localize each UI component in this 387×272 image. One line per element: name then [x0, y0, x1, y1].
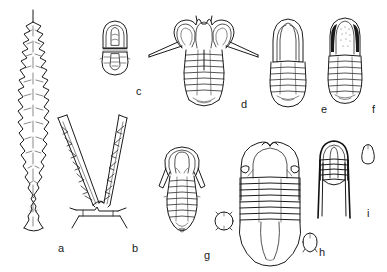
figure-d-trilobite: [149, 16, 258, 106]
figure-b-graptolite: [58, 115, 127, 228]
figure-label-f: f: [372, 104, 375, 115]
figure-f-trilobite: [328, 18, 362, 104]
figure-e-trilobite: [270, 19, 306, 107]
figure-label-g: g: [204, 250, 210, 261]
figure-a-graptolite: [18, 10, 49, 231]
figure-label-d: d: [241, 99, 247, 110]
figure-c-trilobite: [100, 21, 130, 75]
illustration-plate: a b c d e f g h i: [0, 0, 387, 272]
figure-i-trilobite: [318, 141, 350, 218]
figure-label-h: h: [319, 247, 325, 258]
figure-label-a: a: [58, 243, 64, 254]
figure-i-detail-sclerite: [362, 145, 375, 165]
figure-label-b: b: [132, 243, 138, 254]
plate-drawing: [0, 0, 387, 272]
figure-h-detail-sclerite: [303, 233, 317, 252]
figure-g-trilobite: [159, 147, 205, 232]
figure-label-i: i: [367, 208, 369, 219]
figure-h-trilobite: [239, 142, 300, 266]
figure-label-c: c: [136, 86, 142, 97]
figure-label-e: e: [321, 104, 327, 115]
figure-g-detail-sclerite: [215, 212, 233, 230]
